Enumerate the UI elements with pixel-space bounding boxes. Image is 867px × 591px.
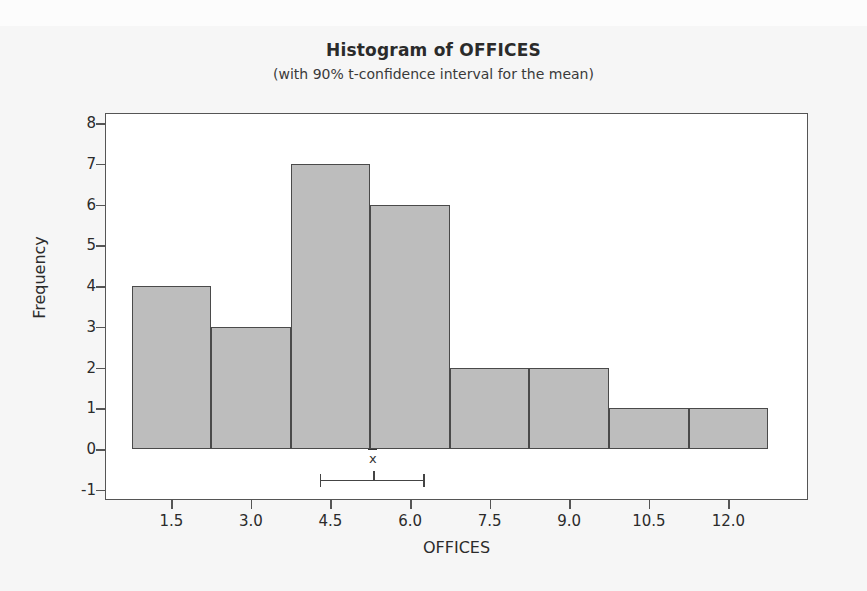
- y-axis-tick-label: 3: [62, 318, 96, 336]
- x-axis-tick-label: 9.0: [539, 512, 599, 530]
- y-axis-label: Frequency: [30, 218, 49, 338]
- y-axis-tick-mark: [96, 286, 105, 288]
- chart-canvas: Histogram of OFFICES (with 90% t-confide…: [0, 0, 867, 591]
- y-axis-tick-label: 7: [62, 155, 96, 173]
- y-axis-tick-label: 1: [62, 399, 96, 417]
- chart-title: Histogram of OFFICES: [0, 40, 867, 60]
- x-axis-label: OFFICES: [105, 538, 808, 557]
- x-axis-tick-label: 1.5: [141, 512, 201, 530]
- y-axis-tick-mark: [96, 205, 105, 207]
- confidence-interval-cap: [320, 474, 322, 487]
- y-axis-tick-mark: [96, 368, 105, 370]
- y-axis-tick-label: 4: [62, 277, 96, 295]
- confidence-interval-cap: [423, 474, 425, 487]
- x-axis-tick-label: 12.0: [698, 512, 758, 530]
- histogram-bar: [211, 327, 291, 449]
- x-axis-tick-mark: [330, 500, 332, 509]
- y-axis-tick-labels: -1012345678: [54, 0, 96, 591]
- histogram-bar: [132, 286, 212, 449]
- x-axis-tick-mark: [490, 500, 492, 509]
- x-axis-tick-mark: [410, 500, 412, 509]
- confidence-interval-center-tick: [373, 471, 375, 480]
- mean-symbol: x: [358, 452, 388, 465]
- x-axis-tick-label: 6.0: [380, 512, 440, 530]
- mean-overbar: [368, 449, 377, 450]
- x-axis-tick-label: 3.0: [221, 512, 281, 530]
- confidence-interval-line: [320, 480, 423, 482]
- plot-area: [105, 113, 808, 500]
- y-axis-tick-mark: [96, 449, 105, 451]
- y-axis-tick-label: 5: [62, 236, 96, 254]
- x-axis-tick-mark: [728, 500, 730, 509]
- y-axis-tick-mark: [96, 245, 105, 247]
- chart-subtitle: (with 90% t-confidence interval for the …: [0, 66, 867, 82]
- page-top-band: [0, 0, 867, 26]
- y-axis-tick-mark: [96, 490, 105, 492]
- x-axis-tick-label: 7.5: [460, 512, 520, 530]
- y-axis-tick-mark: [96, 408, 105, 410]
- x-axis-tick-mark: [649, 500, 651, 509]
- x-axis-tick-mark: [171, 500, 173, 509]
- x-axis-tick-mark: [251, 500, 253, 509]
- y-axis-tick-mark: [96, 123, 105, 125]
- histogram-bar: [609, 408, 689, 449]
- y-axis-tick-label: 6: [62, 196, 96, 214]
- x-axis-tick-label: 10.5: [619, 512, 679, 530]
- y-axis-tick-mark: [96, 164, 105, 166]
- y-axis-tick-label: -1: [62, 481, 96, 499]
- y-axis-tick-mark: [96, 327, 105, 329]
- histogram-bar: [291, 164, 371, 449]
- histogram-bar: [370, 205, 450, 449]
- x-axis-tick-label: 4.5: [300, 512, 360, 530]
- histogram-bar: [450, 368, 530, 449]
- histogram-bar: [529, 368, 609, 449]
- x-axis-tick-mark: [569, 500, 571, 509]
- y-axis-tick-label: 0: [62, 440, 96, 458]
- y-axis-tick-label: 2: [62, 359, 96, 377]
- histogram-bar: [689, 408, 769, 449]
- y-axis-tick-label: 8: [62, 114, 96, 132]
